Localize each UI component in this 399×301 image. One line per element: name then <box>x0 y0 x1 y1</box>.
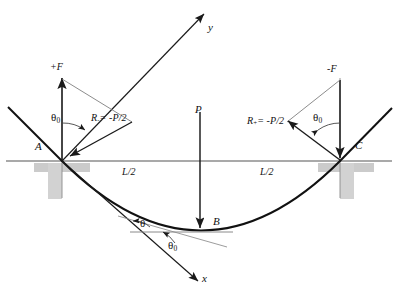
x-axis-label: x <box>202 273 207 284</box>
x-axis <box>62 161 198 281</box>
y-axis <box>62 14 204 161</box>
angle-label-left-theta0: θ0 <box>51 112 60 124</box>
angle-left-subscript: 0 <box>56 116 60 125</box>
angle-label-theta: θ <box>140 218 145 229</box>
support-right <box>318 163 374 199</box>
force-plus-F-label: +F <box>50 62 63 72</box>
y-axis-label: y <box>208 22 213 33</box>
reaction-left-equation: = -P/2 <box>100 112 127 123</box>
force-minus-F-label: -F <box>327 64 337 74</box>
reaction-right-equation: = -P/2 <box>257 115 284 126</box>
angle-arc-left <box>62 123 85 130</box>
reaction-left-label: R-= -P/2 <box>91 113 127 124</box>
load-P-label: P <box>195 104 202 115</box>
dimension-right-span: L/2 <box>260 167 274 177</box>
angle-bottom-subscript: 0 <box>173 244 177 253</box>
point-label-A: A <box>35 141 42 152</box>
diagram-svg <box>0 0 399 301</box>
reaction-right-arrow <box>288 121 340 160</box>
angle-label-right-theta0: θ0 <box>313 112 322 124</box>
cable-curve <box>62 161 340 231</box>
point-label-C: C <box>355 140 362 151</box>
angle-right-subscript: 0 <box>318 116 322 125</box>
point-label-B: B <box>213 216 220 227</box>
dimension-left-span: L/2 <box>122 167 136 177</box>
reaction-right-label: R+= -P/2 <box>247 116 284 127</box>
diagram-canvas: A B C y x +F -F P R-= -P/2 R+= -P/2 θ0 θ… <box>0 0 399 301</box>
cable-extension-right <box>340 108 392 161</box>
angle-label-bottom-theta0: θ0 <box>168 240 177 252</box>
